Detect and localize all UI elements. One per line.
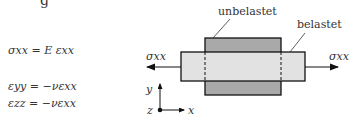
axis-y-label: y bbox=[145, 83, 153, 96]
leader-loaded bbox=[290, 33, 305, 52]
label-loaded: belastet bbox=[297, 18, 342, 31]
force-label-right: σxx bbox=[329, 50, 350, 63]
axis-x-label: x bbox=[188, 104, 195, 117]
label-unloaded: unbelastet bbox=[218, 5, 277, 18]
deformation-diagram: σxx σxx unbelastet belastet y z x bbox=[0, 0, 350, 121]
force-label-left: σxx bbox=[146, 50, 167, 63]
leader-unloaded bbox=[213, 19, 230, 38]
loaded-body bbox=[181, 52, 305, 81]
axis-z-label: z bbox=[146, 104, 153, 117]
